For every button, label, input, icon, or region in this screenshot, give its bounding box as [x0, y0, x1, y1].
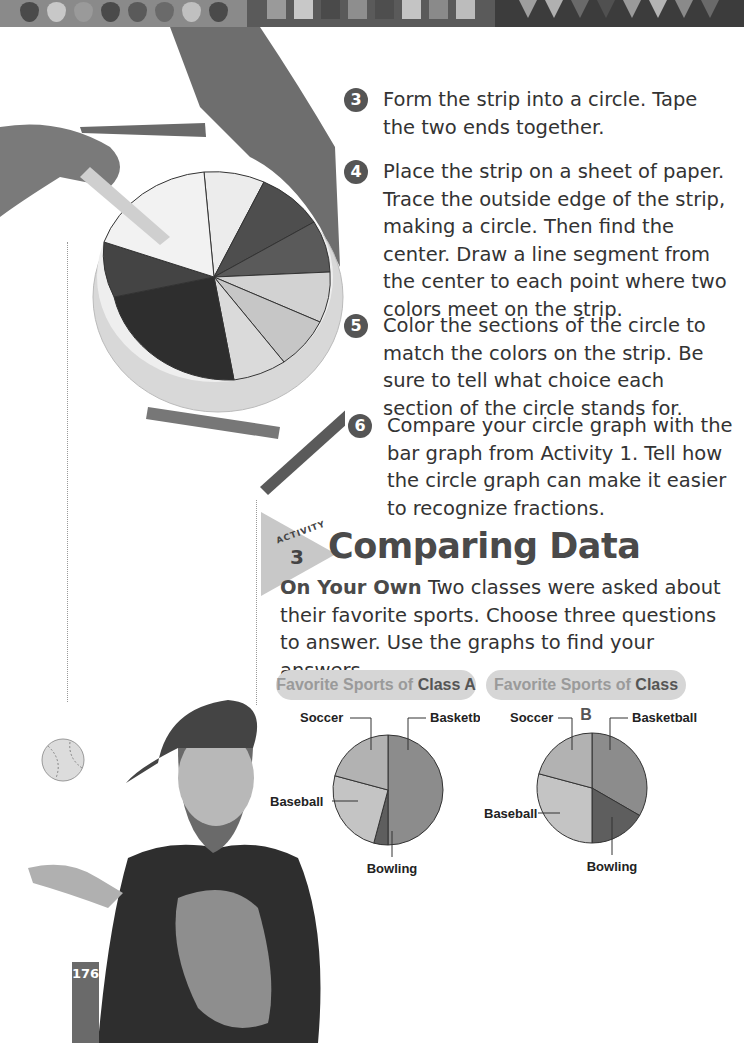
band-drop-icon — [101, 2, 120, 22]
step-text: Form the strip into a circle. Tape the t… — [383, 86, 734, 141]
step-3: 3 Form the strip into a circle. Tape the… — [344, 86, 734, 141]
step-text: Color the sections of the circle to matc… — [383, 312, 734, 422]
band-square-icon — [267, 0, 286, 19]
chart-title-prefix: Favorite Sports of — [494, 676, 635, 693]
step-text: Compare your circle graph with the bar g… — [387, 412, 738, 522]
step-6: 6 Compare your circle graph with the bar… — [348, 412, 738, 522]
activity-title: Comparing Data — [328, 526, 640, 566]
header-band-drops — [0, 0, 247, 27]
header-band-triangles — [495, 0, 744, 27]
dotted-guide-line — [256, 500, 257, 705]
pie-chart-class-b: BasketballSoccerBaseballBowling — [480, 705, 744, 885]
activity-intro: On Your Own Two classes were asked about… — [280, 574, 730, 684]
band-square-icon — [456, 0, 475, 19]
pie-label-soccer: Soccer — [510, 710, 553, 725]
band-drop-icon — [47, 2, 66, 22]
band-drop-icon — [128, 2, 147, 22]
band-triangle-icon — [623, 0, 641, 18]
chart-title-class: Class A — [418, 676, 476, 693]
band-square-icon — [429, 0, 448, 19]
band-triangle-icon — [649, 0, 667, 18]
step-number-badge: 3 — [344, 88, 368, 112]
pie-label-bowling: Bowling — [367, 861, 418, 876]
band-drop-icon — [74, 2, 93, 22]
step-text: Place the strip on a sheet of paper. Tra… — [383, 158, 734, 323]
band-square-icon — [402, 0, 421, 19]
band-triangle-icon — [519, 0, 537, 18]
step-5: 5 Color the sections of the circle to ma… — [344, 312, 734, 422]
band-triangle-icon — [597, 0, 615, 18]
pie-label-baseball: Baseball — [484, 806, 537, 821]
chart-b-title: Favorite Sports of Class B — [486, 670, 686, 700]
band-triangle-icon — [701, 0, 719, 18]
band-drop-icon — [155, 2, 174, 22]
pie-label-basketball: Basketball — [430, 710, 480, 725]
pie-label-bowling: Bowling — [587, 859, 638, 874]
pie-slice-basketball — [388, 735, 443, 845]
band-triangle-icon — [675, 0, 693, 18]
header-band-squares — [247, 0, 495, 27]
step-number-badge: 6 — [348, 414, 372, 438]
band-drop-icon — [209, 2, 228, 22]
hand-icon — [28, 865, 123, 908]
page-number: 176 — [72, 962, 99, 1043]
pie-label-basketball: Basketball — [632, 710, 697, 725]
band-triangle-icon — [571, 0, 589, 18]
hand-left-icon — [0, 125, 120, 218]
band-square-icon — [348, 0, 367, 19]
dotted-guide-line — [67, 242, 68, 702]
marker-icon — [80, 123, 206, 137]
band-square-icon — [375, 0, 394, 19]
step-number-badge: 5 — [344, 314, 368, 338]
step-number-badge: 4 — [344, 160, 368, 184]
activity-number: 3 — [290, 545, 304, 569]
band-drop-icon — [182, 2, 201, 22]
step-4: 4 Place the strip on a sheet of paper. T… — [344, 158, 734, 323]
band-triangle-icon — [545, 0, 563, 18]
band-square-icon — [294, 0, 313, 19]
photo-paper-circle — [0, 27, 345, 507]
intro-lead: On Your Own — [280, 576, 422, 599]
marker-icon — [260, 397, 345, 495]
band-square-icon — [321, 0, 340, 19]
band-drop-icon — [20, 2, 39, 22]
